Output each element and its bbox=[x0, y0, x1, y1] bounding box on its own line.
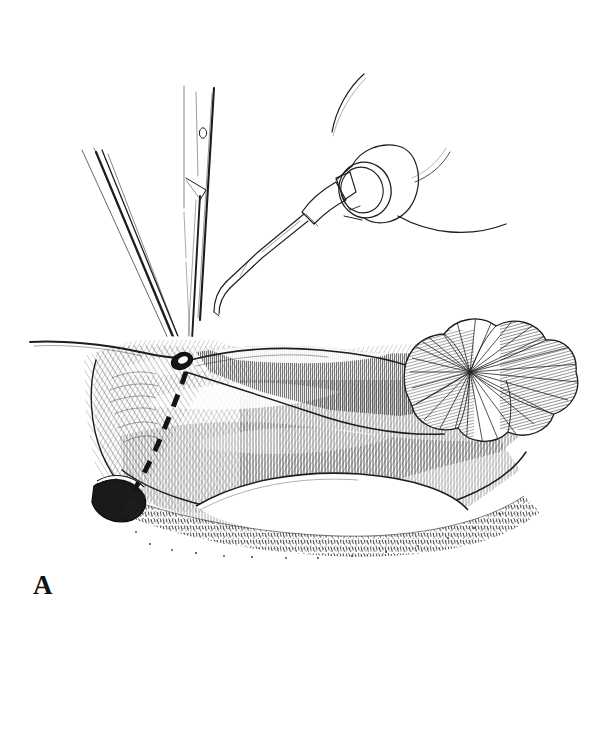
surgical-illustration bbox=[0, 0, 610, 744]
panel-label: A bbox=[33, 572, 53, 599]
figure-panel: A bbox=[0, 0, 610, 744]
